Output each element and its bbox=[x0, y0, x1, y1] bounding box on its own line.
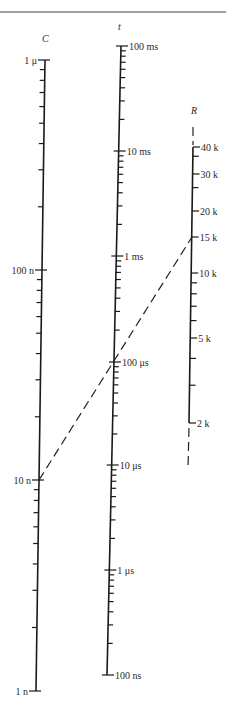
tick-label-t: 1 μs bbox=[117, 565, 134, 576]
rc-nomogram: C1 μ100 n10 n1 nt100 ms10 ms1 ms100 μs10… bbox=[0, 0, 226, 708]
tick-label-C: 1 μ bbox=[24, 55, 37, 66]
tick-label-R: 2 k bbox=[197, 418, 210, 429]
tick-label-t: 100 ms bbox=[129, 41, 158, 52]
tick-label-t: 1 ms bbox=[124, 251, 143, 262]
tick-label-R: 5 k bbox=[198, 333, 211, 344]
tick-label-t: 100 ns bbox=[115, 670, 142, 681]
tick-label-R: 30 k bbox=[201, 169, 219, 180]
tick-label-R: 10 k bbox=[199, 268, 217, 279]
tick-label-R: 15 k bbox=[200, 232, 218, 243]
axis-title-R: R bbox=[190, 105, 197, 116]
tick-label-R: 40 k bbox=[201, 142, 219, 153]
tick-label-C: 1 n bbox=[16, 686, 29, 697]
tick-label-R: 20 k bbox=[200, 206, 218, 217]
tick-label-C: 10 n bbox=[14, 475, 32, 486]
axis-line-R bbox=[189, 147, 193, 423]
tick-label-t: 10 μs bbox=[120, 460, 142, 471]
tick-label-t: 10 ms bbox=[127, 146, 151, 157]
axis-title-t: t bbox=[118, 21, 121, 32]
axis-title-C: C bbox=[42, 33, 49, 44]
tick-label-t: 100 μs bbox=[122, 357, 149, 368]
axis-R: R40 k30 k20 k15 k10 k5 k2 k bbox=[188, 105, 219, 468]
axis-t: t100 ms10 ms1 ms100 μs10 μs1 μs100 ns bbox=[102, 21, 158, 681]
axis-line-C bbox=[36, 60, 45, 691]
tick-label-C: 100 n bbox=[12, 265, 35, 276]
axis-C: C1 μ100 n10 n1 n bbox=[12, 33, 50, 697]
r-axis-extension-bottom bbox=[188, 428, 189, 468]
